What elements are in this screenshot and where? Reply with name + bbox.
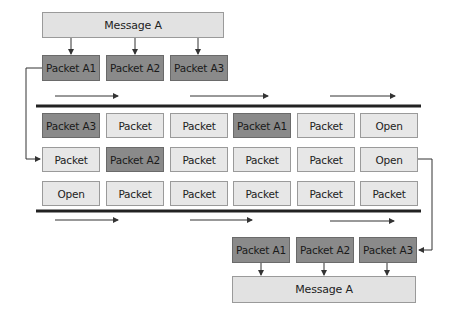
source-packet-a1: Packet A1: [42, 55, 100, 81]
grid-cell: Packet: [233, 147, 291, 172]
grid-cell: Packet: [360, 181, 418, 206]
grid-cell: Packet: [106, 181, 164, 206]
dest-message: Message A: [232, 276, 416, 303]
grid-cell: Packet: [170, 147, 228, 172]
grid-cell: Packet: [297, 147, 355, 172]
source-packet-a3: Packet A3: [170, 55, 228, 81]
grid-cell: Packet: [297, 181, 355, 206]
grid-cell: Packet: [297, 113, 355, 138]
source-message: Message A: [42, 12, 224, 38]
dest-packet-a1: Packet A1: [232, 237, 290, 263]
grid-cell: Packet: [233, 181, 291, 206]
grid-cell: Packet: [170, 113, 228, 138]
grid-cell: Open: [360, 147, 418, 172]
grid-cell: Packet A3: [42, 113, 100, 138]
exit-path: [418, 159, 432, 250]
grid-cell: Packet: [106, 113, 164, 138]
source-packet-a2: Packet A2: [106, 55, 164, 81]
grid-cell: Packet: [42, 147, 100, 172]
grid-cell: Packet: [170, 181, 228, 206]
entry-path: [26, 68, 42, 159]
grid-cell: Open: [42, 181, 100, 206]
dest-packet-a2: Packet A2: [296, 237, 354, 263]
grid-cell: Open: [360, 113, 418, 138]
grid-cell: Packet A2: [106, 147, 164, 172]
grid-cell: Packet A1: [233, 113, 291, 138]
dest-packet-a3: Packet A3: [359, 237, 417, 263]
